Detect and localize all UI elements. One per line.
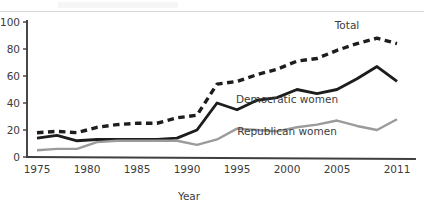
chart-container: 020406080100 197519801985199019952000200… (0, 0, 424, 206)
x-axis-tick-label: 1975 (24, 163, 51, 175)
series-label-total: Total (334, 19, 360, 31)
x-axis-tick-label: 1985 (124, 163, 151, 175)
x-axis-tick-label: 1980 (74, 163, 101, 175)
x-axis-tick-label: 2011 (384, 163, 411, 175)
y-axis-tick-label: 20 (7, 124, 20, 136)
x-axis-tick-label: 2000 (274, 163, 301, 175)
series-line-democratic-women (37, 67, 397, 141)
y-axis-tick-label: 40 (7, 97, 20, 109)
y-axis-tick-group: 020406080100 (0, 16, 27, 163)
x-axis-tick-label: 1995 (224, 163, 251, 175)
series-label-republican-women: Republican women (237, 125, 337, 137)
y-axis-tick-label: 100 (0, 16, 20, 28)
x-axis-tick-label: 2005 (324, 163, 351, 175)
x-axis-tick-label: 1990 (174, 163, 201, 175)
x-axis-line (27, 157, 415, 159)
x-axis-title: Year (177, 190, 201, 202)
line-chart: 020406080100 197519801985199019952000200… (0, 0, 424, 206)
series-line-republican-women (37, 119, 397, 150)
series-label-group: TotalDemocratic womenRepublican women (236, 19, 359, 138)
y-axis-tick-label: 80 (7, 43, 20, 55)
series-label-democratic-women: Democratic women (236, 93, 338, 105)
series-group (37, 38, 397, 150)
y-axis-tick-label: 0 (13, 151, 20, 163)
x-axis-tick-group: 19751980198519901995200020052011 (24, 163, 411, 175)
y-axis-tick-label: 60 (7, 70, 20, 82)
